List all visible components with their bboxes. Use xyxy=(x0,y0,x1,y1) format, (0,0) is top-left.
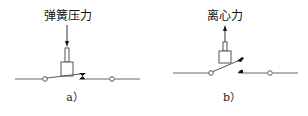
centrifugal-force-label: 离心力 xyxy=(207,8,243,23)
down-arrow-icon xyxy=(65,41,69,47)
plunger-block xyxy=(61,62,73,76)
up-arrow-icon xyxy=(223,25,227,31)
spring-force-label: 弹簧压力 xyxy=(44,8,92,23)
switch-diagram: 弹簧压力 a） 离心力 xyxy=(0,0,308,116)
fixed-contact-icon xyxy=(238,70,243,73)
terminal-right xyxy=(110,77,115,82)
panel-a: 弹簧压力 a） xyxy=(15,8,140,104)
plunger-block xyxy=(219,51,231,63)
moving-contact-icon xyxy=(237,57,244,62)
plunger-stem xyxy=(223,42,227,51)
terminal-right xyxy=(268,71,273,76)
panel-b: 离心力 b） xyxy=(173,8,298,104)
plunger-stem xyxy=(65,48,69,62)
terminal-left xyxy=(43,77,48,82)
caption-a: a） xyxy=(66,91,84,104)
caption-b: b） xyxy=(223,91,241,104)
terminal-left xyxy=(209,71,214,76)
closed-contact-icon xyxy=(79,73,86,80)
